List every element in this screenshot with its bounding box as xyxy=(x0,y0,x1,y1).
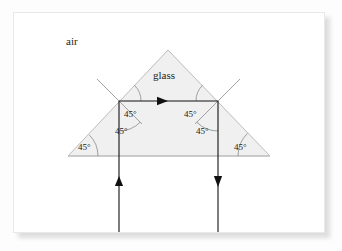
air-label: air xyxy=(66,36,78,47)
paper-page xyxy=(13,12,325,233)
angle-label-left-lower: 45° xyxy=(115,127,128,136)
figure-canvas: air glass 45° 45° 45° 45° 45° 45° xyxy=(0,0,342,251)
angle-label-right-lower: 45° xyxy=(196,127,209,136)
angle-label-left-vertex: 45° xyxy=(78,143,91,152)
angle-label-right-vertex: 45° xyxy=(234,143,247,152)
angle-label-left-upper: 45° xyxy=(124,110,137,119)
angle-label-right-upper: 45° xyxy=(184,110,197,119)
glass-label: glass xyxy=(153,70,175,81)
